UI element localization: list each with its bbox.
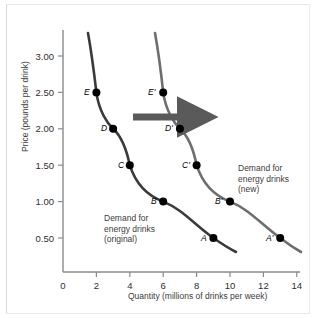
point-A bbox=[209, 234, 217, 242]
x-axis-label: Quantity (millions of drinks per week) bbox=[128, 292, 267, 301]
x-tick-label-14: 14 bbox=[289, 281, 305, 291]
demand-curve-figure: Price (pounds per drink) Quantity (milli… bbox=[0, 0, 316, 318]
x-tick-label-2: 2 bbox=[88, 281, 104, 291]
y-tick-label-2-00: 2.00 bbox=[24, 124, 54, 134]
point-label-A: A bbox=[201, 234, 207, 243]
legend-original-line-2: energy drinks bbox=[104, 224, 155, 235]
point-D-prime bbox=[176, 125, 184, 133]
chart-canvas bbox=[0, 0, 316, 318]
x-tick-label-0: 0 bbox=[55, 281, 71, 291]
y-tick-label-3-00: 3.00 bbox=[24, 52, 54, 62]
point-label-D-prime: D' bbox=[165, 124, 173, 133]
legend-new: Demand for energy drinks (new) bbox=[238, 163, 289, 195]
point-label-E-prime: E' bbox=[148, 88, 155, 97]
y-tick-label-0-50: 0.50 bbox=[24, 234, 54, 244]
demand-curve-new bbox=[155, 33, 301, 252]
x-axis-ticks bbox=[96, 272, 296, 277]
point-label-B: B bbox=[151, 197, 157, 206]
x-tick-label-6: 6 bbox=[155, 281, 171, 291]
point-C-prime bbox=[193, 161, 201, 169]
y-axis-ticks bbox=[58, 56, 63, 238]
legend-new-line-1: Demand for bbox=[238, 163, 289, 174]
legend-new-line-2: energy drinks bbox=[238, 174, 289, 185]
point-label-B-prime: B' bbox=[215, 197, 222, 206]
x-tick-label-12: 12 bbox=[255, 281, 271, 291]
y-tick-label-1-50: 1.50 bbox=[24, 161, 54, 171]
point-B-prime bbox=[226, 198, 234, 206]
y-tick-label-1-00: 1.00 bbox=[24, 197, 54, 207]
point-B bbox=[159, 198, 167, 206]
point-E bbox=[92, 88, 100, 96]
legend-original-line-3: (original) bbox=[104, 234, 155, 245]
point-D bbox=[109, 125, 117, 133]
point-A-prime bbox=[276, 234, 284, 242]
legend-original: Demand for energy drinks (original) bbox=[104, 213, 155, 245]
point-label-E: E bbox=[84, 88, 90, 97]
point-label-C: C bbox=[118, 161, 124, 170]
point-label-D: D bbox=[101, 124, 107, 133]
point-label-A-prime: A' bbox=[266, 234, 273, 243]
y-axis-label: Price (pounds per drink) bbox=[21, 61, 30, 152]
x-tick-label-10: 10 bbox=[222, 281, 238, 291]
x-tick-label-8: 8 bbox=[189, 281, 205, 291]
legend-new-line-3: (new) bbox=[238, 184, 289, 195]
point-C bbox=[126, 161, 134, 169]
point-E-prime bbox=[159, 88, 167, 96]
x-tick-label-4: 4 bbox=[122, 281, 138, 291]
legend-original-line-1: Demand for bbox=[104, 213, 155, 224]
y-tick-label-2-50: 2.50 bbox=[24, 88, 54, 98]
point-label-C-prime: C' bbox=[182, 161, 190, 170]
